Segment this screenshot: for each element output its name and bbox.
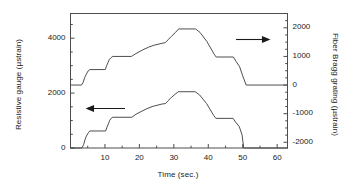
x-tick-label-1: 20 (126, 153, 152, 162)
right-arrow-annotation (236, 37, 269, 42)
left-tick-label-2: 4000 (32, 33, 66, 42)
chart-figure: Resistive gauge (µstrain) Fiber Bragg gr… (0, 0, 353, 187)
right-tick-label-0: -2000 (293, 137, 327, 146)
left-axis-title: Resistive gauge (µstrain) (14, 25, 23, 145)
right-axis-ticks (284, 14, 288, 143)
left-tick-label-0: 0 (32, 143, 66, 152)
right-axis-title: Fiber Bragg grating (µstrain) (331, 25, 340, 145)
x-tick-label-3: 40 (195, 153, 221, 162)
right-tick-label-3: 1000 (293, 51, 327, 60)
x-axis-title: Time (sec.) (128, 170, 228, 179)
x-tick-label-4: 50 (230, 153, 256, 162)
plot-frame (71, 14, 288, 149)
right-tick-label-1: -1000 (293, 108, 327, 117)
x-tick-label-5: 60 (264, 153, 290, 162)
right-tick-label-2: 0 (293, 80, 327, 89)
resistive-gauge-curve (71, 92, 288, 148)
left-tick-label-1: 2000 (32, 88, 66, 97)
x-tick-label-2: 30 (161, 153, 187, 162)
right-tick-label-4: 2000 (293, 22, 327, 31)
bottom-axis-ticks (71, 144, 278, 148)
x-tick-label-0: 10 (92, 153, 118, 162)
left-arrow-annotation (87, 106, 125, 111)
fiber-bragg-grating-curve (71, 29, 288, 85)
left-axis-ticks (71, 24, 75, 148)
